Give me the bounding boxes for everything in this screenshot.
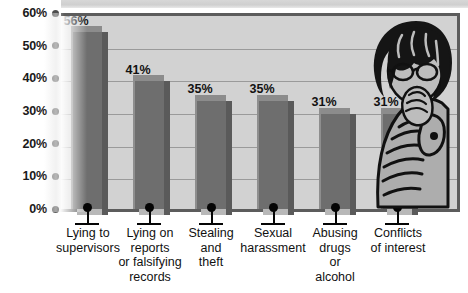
y-axis-tick-dot-icon — [52, 42, 59, 49]
y-axis-tick-40: 40% — [23, 71, 61, 85]
category-leader-bar-2 — [137, 223, 161, 225]
bar-lying-to-supervisors[interactable] — [71, 26, 102, 209]
bar-front-face — [319, 108, 350, 209]
bar-side-face — [226, 101, 232, 215]
plot-area — [61, 13, 460, 212]
y-axis-tick-label: 20% — [23, 137, 47, 151]
category-leader-bar-1 — [75, 223, 99, 225]
y-axis-tick-label: 60% — [23, 6, 47, 20]
bar-front-face — [257, 95, 288, 209]
bar-value-label-2: 41% — [108, 63, 168, 77]
bar-front-face — [71, 26, 102, 209]
y-axis-tick-label: 30% — [23, 104, 47, 118]
cartoon-woman-illustration — [368, 19, 454, 209]
y-axis-tick-50: 50% — [23, 39, 61, 53]
bar-sexual-harassment[interactable] — [257, 95, 288, 209]
bar-value-label-1: 56% — [46, 14, 106, 28]
y-axis-tick-dot-icon — [52, 173, 59, 180]
category-leader-bar-4 — [261, 223, 285, 225]
bar-value-label-5: 31% — [294, 95, 354, 109]
y-axis-tick-0: 0% — [29, 202, 61, 216]
category-leader-bar-3 — [199, 223, 223, 225]
bar-stealing-and-theft[interactable] — [195, 95, 226, 209]
chart-root: 60% 50% 40% 30% 20% 10% 0% — [0, 0, 468, 293]
y-axis-tick-label: 10% — [23, 169, 47, 183]
bar-front-face — [133, 75, 164, 209]
y-axis-tick-label: 0% — [29, 202, 47, 216]
bar-side-face — [350, 114, 356, 215]
y-axis-tick-dot-icon — [52, 206, 59, 213]
y-axis: 60% 50% 40% 30% 20% 10% 0% — [0, 13, 61, 212]
category-leader-bar-6 — [385, 223, 409, 225]
category-leader-bar-5 — [323, 223, 347, 225]
top-decorative-band — [61, 0, 468, 8]
y-axis-tick-20: 20% — [23, 137, 61, 151]
y-axis-tick-dot-icon — [52, 75, 59, 82]
y-axis-tick-dot-icon — [52, 108, 59, 115]
bar-side-face — [164, 81, 170, 215]
y-axis-tick-label: 40% — [23, 71, 47, 85]
bar-abusing-drugs-or-alcohol[interactable] — [319, 108, 350, 209]
bar-side-face — [102, 32, 108, 215]
category-label-conflicts-of-interest: Conflicts of interest — [360, 226, 436, 255]
bar-lying-on-reports[interactable] — [133, 75, 164, 209]
y-axis-tick-10: 10% — [23, 169, 61, 183]
bar-value-label-4: 35% — [232, 82, 292, 96]
bar-side-face — [288, 101, 294, 215]
bar-value-label-3: 35% — [170, 82, 230, 96]
bar-front-face — [195, 95, 226, 209]
y-axis-tick-dot-icon — [52, 140, 59, 147]
y-axis-tick-30: 30% — [23, 104, 61, 118]
y-axis-tick-label: 50% — [23, 39, 47, 53]
